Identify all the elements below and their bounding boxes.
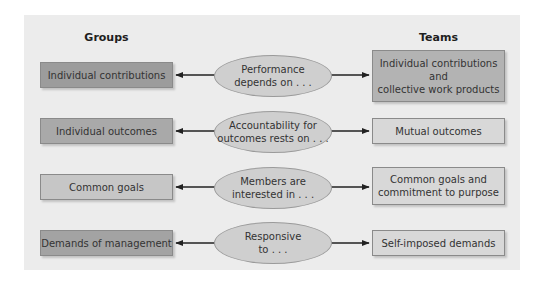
team-box-mutual-outcomes: Mutual outcomes	[372, 118, 505, 144]
group-box-common-goals: Common goals	[40, 174, 173, 200]
team-box-label: Individual contributions and collective …	[378, 57, 500, 96]
group-box-label: Individual outcomes	[56, 125, 157, 138]
group-box-label: Demands of management	[41, 237, 172, 250]
group-box-individual-contributions: Individual contributions	[40, 62, 173, 88]
group-box-label: Common goals	[69, 181, 144, 194]
team-box-individual-and-collective: Individual contributions and collective …	[372, 50, 505, 102]
team-box-self-imposed-demands: Self-imposed demands	[372, 230, 505, 256]
connector-ellipse-responsive: Responsive to . . .	[214, 222, 332, 264]
group-box-individual-outcomes: Individual outcomes	[40, 118, 173, 144]
team-box-label: Self-imposed demands	[382, 237, 496, 250]
team-box-common-goals-commitment: Common goals and commitment to purpose	[372, 167, 505, 205]
connector-ellipse-performance: Performance depends on . . .	[214, 55, 332, 97]
connector-ellipse-members-interested: Members are interested in . . .	[214, 167, 332, 209]
team-box-label: Common goals and commitment to purpose	[378, 173, 499, 199]
team-box-label: Mutual outcomes	[395, 125, 481, 138]
group-box-demands-of-management: Demands of management	[40, 230, 173, 256]
group-box-label: Individual contributions	[48, 69, 166, 82]
connector-ellipse-accountability: Accountability for outcomes rests on . .…	[214, 111, 332, 153]
